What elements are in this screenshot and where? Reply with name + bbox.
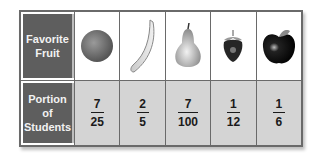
- fruit-table: Favorite Fruit: [19, 10, 303, 147]
- fruit-cell-pear: [165, 12, 210, 80]
- numerator: 1: [275, 97, 282, 111]
- fraction: 112: [227, 97, 240, 130]
- denominator: 100: [178, 115, 198, 129]
- portion-row: Portion of Students 725 25 7100 112 16: [21, 81, 301, 145]
- row-header-label: Favorite Fruit: [23, 32, 72, 60]
- denominator: 5: [139, 115, 146, 129]
- fruit-cell-strawberry: [210, 12, 255, 80]
- fraction-bar: [137, 112, 149, 114]
- fruit-cell-banana: [119, 12, 164, 80]
- favorite-fruit-row: Favorite Fruit: [21, 12, 301, 81]
- portion-cell-orange: 725: [74, 81, 119, 145]
- fruit-cell-apple: [256, 12, 301, 80]
- portion-cell-banana: 25: [119, 81, 164, 145]
- row-header-favorite-fruit: Favorite Fruit: [23, 14, 74, 78]
- pear-icon: [172, 21, 204, 71]
- numerator: 2: [139, 97, 146, 111]
- strawberry-icon: [220, 28, 246, 64]
- row-header-label: Portion of Students: [23, 92, 72, 134]
- fruit-cell-orange: [74, 12, 119, 80]
- portion-cell-strawberry: 112: [210, 81, 255, 145]
- numerator: 7: [185, 97, 192, 111]
- row-header-portion: Portion of Students: [23, 83, 74, 143]
- fraction-bar: [273, 112, 285, 114]
- portion-cell-apple: 16: [256, 81, 301, 145]
- fraction: 25: [137, 97, 149, 130]
- fraction: 16: [273, 97, 285, 130]
- fraction-bar: [91, 112, 104, 114]
- fraction: 725: [91, 97, 104, 130]
- orange-icon: [79, 28, 115, 64]
- banana-icon: [128, 18, 158, 74]
- portion-cell-pear: 7100: [165, 81, 210, 145]
- apple-icon: [260, 25, 298, 67]
- denominator: 6: [275, 115, 282, 129]
- denominator: 12: [227, 115, 240, 129]
- fraction: 7100: [178, 97, 198, 130]
- fraction-bar: [227, 112, 240, 114]
- numerator: 1: [230, 97, 237, 111]
- numerator: 7: [94, 97, 101, 111]
- denominator: 25: [91, 115, 104, 129]
- fraction-bar: [178, 112, 198, 114]
